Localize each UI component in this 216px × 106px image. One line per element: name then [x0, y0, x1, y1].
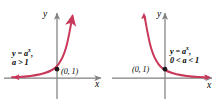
decay-point-0-1 — [163, 67, 168, 72]
decay-equation-condition: 0 < a < 1 — [170, 57, 199, 66]
growth-equation-comma: , — [31, 49, 33, 58]
decay-plot-svg — [108, 0, 216, 106]
growth-y-axis-label: y — [43, 9, 47, 19]
exponential-growth-panel: y x y = ax, a > 1 (0, 1) — [0, 0, 108, 106]
decay-curve-top-arrowhead — [141, 13, 146, 20]
decay-equation-comma: , — [189, 47, 191, 56]
growth-x-axis-label: x — [95, 79, 99, 89]
decay-x-axis-label: x — [207, 80, 211, 90]
growth-point-0-1 — [55, 67, 60, 72]
exponential-decay-panel: y x y = ax, 0 < a < 1 (0, 1) — [108, 0, 216, 106]
decay-point-label: (0, 1) — [132, 66, 149, 75]
growth-equation-label: y = ax, a > 1 — [12, 50, 33, 68]
exponential-functions-figure: y x y = ax, a > 1 (0, 1) — [0, 0, 216, 106]
decay-equation-lhs: y = a — [170, 47, 186, 56]
growth-point-label: (0, 1) — [61, 68, 78, 77]
growth-equation-lhs: y = a — [12, 49, 28, 58]
decay-y-axis-label: y — [157, 9, 161, 19]
decay-equation-label: y = ax, 0 < a < 1 — [170, 48, 199, 66]
growth-equation-condition: a > 1 — [12, 59, 33, 68]
